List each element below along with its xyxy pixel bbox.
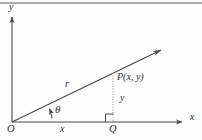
horizontal-leg-label: x	[60, 124, 64, 134]
radius-label: r	[65, 79, 69, 89]
diagram-canvas	[0, 0, 202, 140]
x-axis-label: x	[190, 112, 194, 122]
angle-label: θ	[55, 104, 60, 115]
polar-coordinate-diagram: y x O r θ P(x, y) x y Q	[0, 0, 202, 140]
terminal-ray	[12, 50, 161, 122]
angle-arc	[50, 109, 53, 119]
right-angle-marker	[106, 114, 114, 122]
foot-q-label: Q	[109, 124, 117, 135]
y-axis-label: y	[9, 2, 13, 12]
point-p-label: P(x, y)	[117, 72, 144, 82]
origin-label: O	[7, 124, 15, 135]
vertical-leg-label: y	[120, 93, 124, 103]
